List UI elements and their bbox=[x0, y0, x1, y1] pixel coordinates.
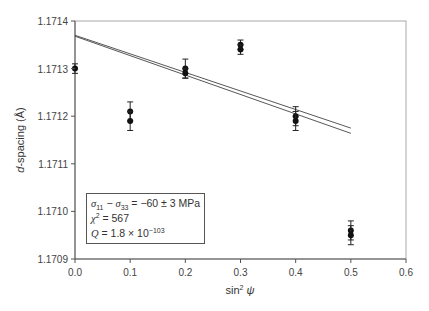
fit-line bbox=[75, 36, 351, 133]
x-tick-label: 0.1 bbox=[123, 267, 137, 278]
y-axis: 1.17091.17101.17111.17121.17131.1714 bbox=[37, 16, 75, 265]
data-point bbox=[182, 70, 188, 76]
fit-line bbox=[75, 35, 351, 128]
x-tick-label: 0.6 bbox=[399, 267, 413, 278]
q-annotation: Q = 1.8 × 10−103 bbox=[91, 226, 200, 241]
y-tick-label: 1.1714 bbox=[37, 16, 68, 27]
stress-annotation: σ11 − σ33 = −60 ± 3 MPa bbox=[91, 196, 200, 211]
x-tick-label: 0.3 bbox=[234, 267, 248, 278]
legend-box: σ11 − σ33 = −60 ± 3 MPa χ2 = 567 Q = 1.8… bbox=[86, 193, 205, 244]
q-symbol: Q bbox=[91, 228, 99, 239]
superscript: −103 bbox=[149, 227, 165, 234]
data-point bbox=[293, 118, 299, 124]
q-value: = 1.8 × 10 bbox=[99, 227, 149, 239]
x-tick-label: 0.2 bbox=[178, 267, 192, 278]
x-tick-label: 0.5 bbox=[344, 267, 358, 278]
y-axis-title: d-spacing (Å) bbox=[14, 107, 26, 172]
chi-value: = 567 bbox=[100, 212, 130, 224]
y-tick-label: 1.1709 bbox=[37, 254, 68, 265]
y-tick-label: 1.1712 bbox=[37, 111, 68, 122]
data-point bbox=[127, 118, 133, 124]
y-tick-label: 1.1713 bbox=[37, 64, 68, 75]
x-tick-label: 0.4 bbox=[289, 267, 303, 278]
x-axis: 0.00.10.20.30.40.50.6 bbox=[68, 259, 413, 278]
minus: − bbox=[103, 197, 115, 209]
y-tick-label: 1.1710 bbox=[37, 206, 68, 217]
x-tick-label: 0.0 bbox=[68, 267, 82, 278]
y-tick-label: 1.1711 bbox=[38, 159, 68, 170]
data-point bbox=[238, 47, 244, 53]
x-axis-title: sin2 ψ bbox=[225, 284, 254, 296]
data-point bbox=[348, 232, 354, 238]
stress-value: = −60 ± 3 MPa bbox=[128, 197, 200, 209]
fit-lines bbox=[75, 35, 351, 133]
scatter-plot: 0.00.10.20.30.40.50.6 1.17091.17101.1711… bbox=[0, 0, 429, 311]
chi-squared-annotation: χ2 = 567 bbox=[91, 211, 200, 226]
